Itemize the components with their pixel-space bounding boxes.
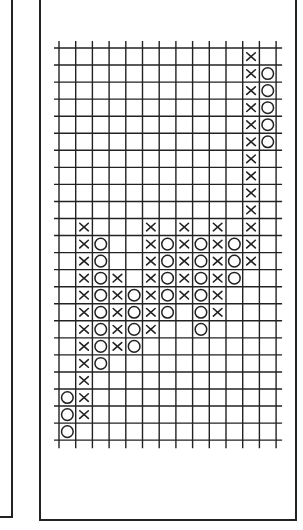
chart-panel [39, 0, 297, 521]
left-panel-edge [0, 0, 13, 518]
